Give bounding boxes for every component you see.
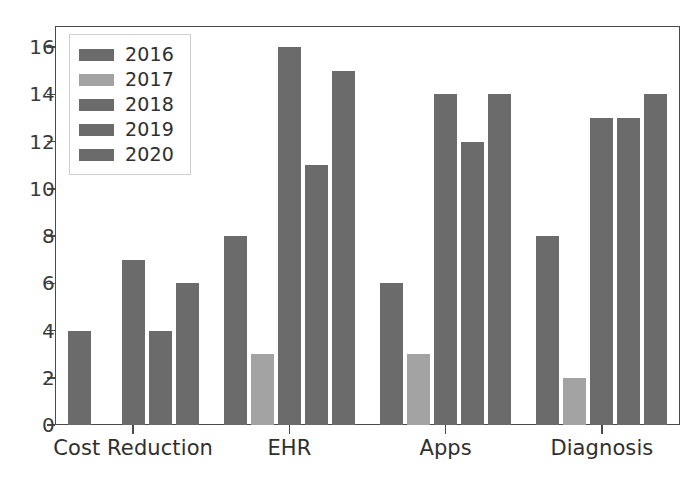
bar — [380, 283, 403, 425]
legend-swatch-icon — [79, 74, 114, 86]
legend-label: 2018 — [125, 95, 174, 114]
x-tick-mark — [289, 425, 291, 434]
legend-swatch-icon — [79, 124, 114, 136]
x-category-label: Cost Reduction — [53, 437, 213, 460]
bar — [434, 94, 457, 425]
legend-label: 2017 — [125, 70, 174, 89]
bar — [644, 94, 667, 425]
legend-item: 2018 — [79, 92, 182, 117]
legend-item: 2020 — [79, 142, 182, 167]
bar — [332, 71, 355, 425]
legend-swatch-icon — [79, 99, 114, 111]
bar — [122, 260, 145, 425]
x-category-label: Apps — [419, 437, 471, 460]
x-tick-mark — [132, 425, 134, 434]
x-tick-mark — [601, 425, 603, 434]
bar — [617, 118, 640, 425]
x-category-label: Diagnosis — [550, 437, 653, 460]
bar — [563, 378, 586, 425]
legend: 20162017201820192020 — [69, 34, 191, 175]
legend-item: 2019 — [79, 117, 182, 142]
legend-label: 2020 — [125, 145, 174, 164]
bar — [461, 142, 484, 425]
legend-item: 2017 — [79, 67, 182, 92]
bar — [278, 47, 301, 425]
bar — [224, 236, 247, 425]
bar-chart: 0246810121416 Cost ReductionEHRAppsDiagn… — [0, 0, 696, 487]
bar — [251, 354, 274, 425]
legend-label: 2019 — [125, 120, 174, 139]
bar — [68, 331, 91, 425]
x-category-label: EHR — [267, 437, 311, 460]
bar — [305, 165, 328, 425]
legend-item: 2016 — [79, 42, 182, 67]
x-tick-mark — [445, 425, 447, 434]
bar — [407, 354, 430, 425]
legend-swatch-icon — [79, 49, 114, 61]
bar — [176, 283, 199, 425]
legend-label: 2016 — [125, 45, 174, 64]
legend-swatch-icon — [79, 149, 114, 161]
bar — [590, 118, 613, 425]
bar — [488, 94, 511, 425]
bar — [149, 331, 172, 425]
bar — [536, 236, 559, 425]
